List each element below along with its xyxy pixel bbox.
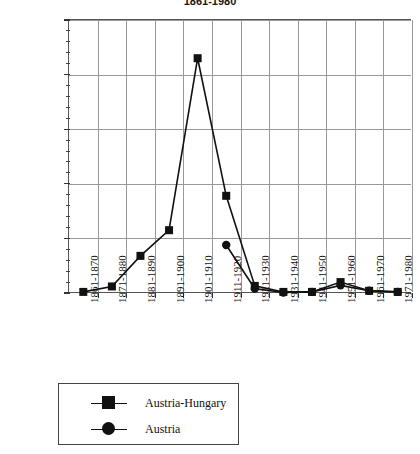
chart-title: 1861-1980 [0, 0, 420, 7]
legend-item-austria: Austria [59, 418, 238, 440]
gridline-vertical [298, 20, 299, 292]
y-axis-minor-tick [66, 227, 70, 228]
y-axis-minor-tick [66, 63, 70, 64]
y-axis-minor-tick [66, 161, 70, 162]
x-axis-label: 1861-1870 [88, 255, 100, 303]
data-point-marker [136, 252, 144, 260]
gridline-horizontal [69, 20, 411, 21]
data-point-marker [165, 226, 173, 234]
gridline-horizontal [69, 129, 411, 130]
y-axis-minor-tick [66, 216, 70, 217]
x-axis-label: 1961-1970 [374, 255, 386, 303]
gridline-vertical [98, 20, 99, 292]
y-axis-minor-tick [66, 41, 70, 42]
y-axis-tick [64, 19, 70, 20]
y-axis-tick [64, 292, 70, 293]
plot-area: 0500,0001,000,0001,500,0002,000,0002,500… [68, 19, 411, 292]
y-axis-minor-tick [66, 96, 70, 97]
legend-label-austria-hungary: Austria-Hungary [145, 396, 226, 411]
data-point-marker [337, 278, 345, 286]
x-axis-label: 1931-1940 [288, 255, 300, 303]
legend-marker-square-icon [89, 393, 129, 413]
gridline-horizontal [69, 184, 411, 185]
x-axis-label: 1871-1880 [116, 255, 128, 303]
legend-label-austria: Austria [145, 422, 180, 437]
y-axis-tick [64, 129, 70, 130]
y-axis-tick [64, 183, 70, 184]
y-axis-minor-tick [66, 249, 70, 250]
y-axis-minor-tick [66, 205, 70, 206]
legend-item-austria-hungary: Austria-Hungary [59, 392, 238, 414]
x-axis-label: 1901-1910 [202, 255, 214, 303]
legend-marker-circle-icon [89, 419, 129, 439]
chart-container: 1861-1980 0500,0001,000,0001,500,0002,00… [0, 0, 420, 454]
data-point-marker [108, 282, 116, 290]
y-axis-minor-tick [66, 140, 70, 141]
x-axis-label: 1891-1900 [174, 255, 186, 303]
y-axis-minor-tick [66, 118, 70, 119]
y-axis-minor-tick [66, 271, 70, 272]
y-axis-minor-tick [66, 85, 70, 86]
y-axis-minor-tick [66, 282, 70, 283]
series-line-austria [226, 245, 398, 293]
data-point-marker [251, 282, 259, 290]
y-axis-tick [64, 238, 70, 239]
gridline-vertical [269, 20, 270, 292]
gridline-vertical [126, 20, 127, 292]
data-point-marker [336, 281, 344, 289]
y-axis-minor-tick [66, 151, 70, 152]
x-axis-label: 1881-1890 [145, 255, 157, 303]
gridline-vertical [355, 20, 356, 292]
y-axis-minor-tick [66, 107, 70, 108]
y-axis-tick [64, 74, 70, 75]
gridline-vertical [212, 20, 213, 292]
data-point-marker [222, 192, 230, 200]
gridline-vertical [241, 20, 242, 292]
data-point-marker [194, 54, 202, 62]
data-point-marker [222, 241, 230, 249]
gridline-horizontal [69, 75, 411, 76]
gridline-horizontal [69, 238, 411, 239]
gridline-vertical [383, 20, 384, 292]
y-axis-minor-tick [66, 260, 70, 261]
chart-legend: Austria-Hungary Austria [58, 383, 239, 445]
gridline-vertical [412, 20, 413, 292]
y-axis-minor-tick [66, 172, 70, 173]
x-axis-label: 1941-1950 [316, 255, 328, 303]
x-axis-label: 1951-1960 [345, 255, 357, 303]
gridline-vertical [183, 20, 184, 292]
x-axis-label: 1971-1980 [402, 255, 414, 303]
x-axis-label: 1911-1920 [231, 256, 243, 303]
y-axis-minor-tick [66, 30, 70, 31]
y-axis-minor-tick [66, 194, 70, 195]
x-axis-label: 1921-1930 [259, 255, 271, 303]
gridline-vertical [155, 20, 156, 292]
y-axis-minor-tick [66, 52, 70, 53]
gridline-vertical [326, 20, 327, 292]
